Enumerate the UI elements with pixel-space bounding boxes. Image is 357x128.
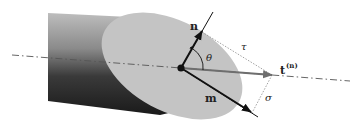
label-theta: θ — [206, 52, 212, 63]
label-m: m — [205, 92, 217, 105]
label-t-superscript: (n) — [286, 61, 298, 70]
label-sigma: σ — [265, 92, 273, 103]
origin-point — [177, 64, 184, 71]
stress-decomposition-diagram: n m θ τ σ t (n) — [0, 0, 357, 128]
label-n: n — [190, 20, 198, 33]
label-tau: τ — [241, 41, 247, 52]
